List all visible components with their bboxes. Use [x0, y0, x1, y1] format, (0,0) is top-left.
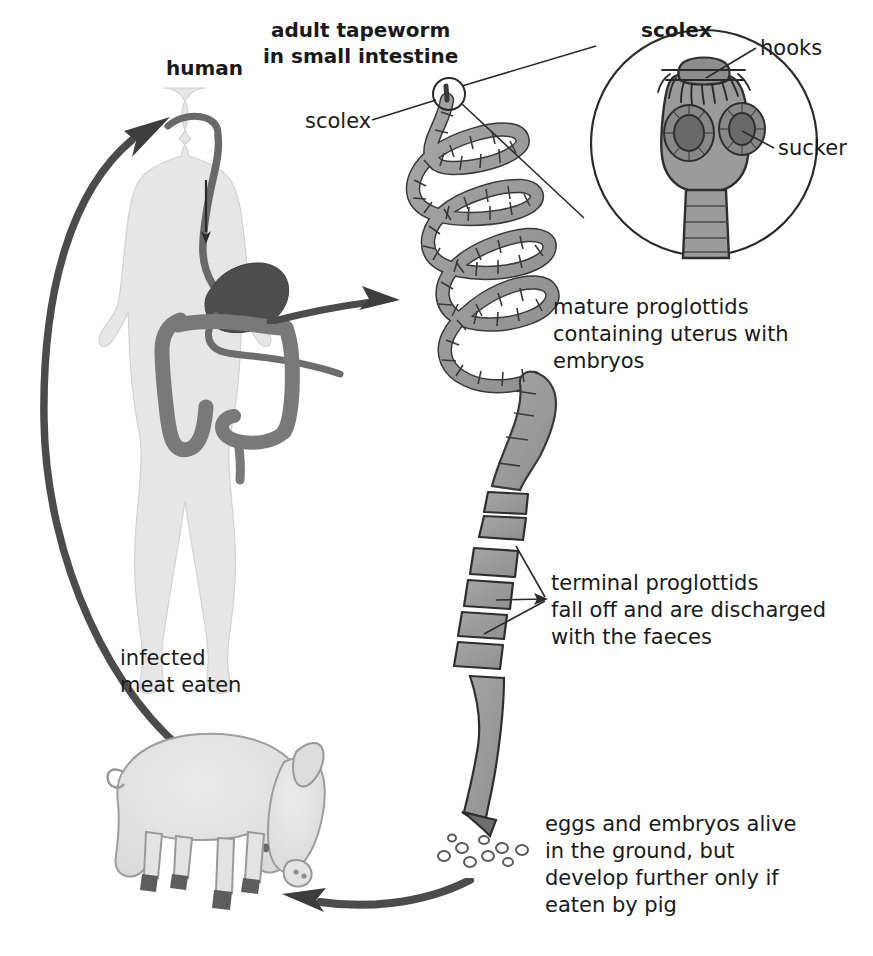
- label-hooks: hooks: [760, 35, 822, 62]
- egg: [482, 851, 494, 861]
- scolex-neck-segment: [683, 190, 729, 258]
- tapeworm-tail: [462, 676, 504, 836]
- sucker-left: [664, 105, 714, 161]
- arrow-to-tapeworm-head: [359, 286, 400, 310]
- proglottid-segment: [479, 516, 526, 540]
- colon-descending: [284, 328, 292, 432]
- egg: [464, 857, 476, 867]
- tapeworm-tail-arrowhead: [462, 812, 496, 836]
- eggs-cluster: [438, 835, 528, 868]
- magnifier-leader-line: [462, 46, 596, 86]
- label-scolex-small: scolex: [305, 108, 371, 135]
- egg: [456, 843, 468, 853]
- label-eggs: eggs and embryos alive in the ground, bu…: [545, 811, 797, 919]
- mouth-throat: [168, 116, 218, 134]
- label-terminal-proglottids: terminal proglottids fall off and are di…: [551, 570, 826, 651]
- arrow-eggs-to-pig: [282, 880, 470, 912]
- egg: [516, 845, 528, 855]
- pig-figure: [108, 734, 325, 910]
- sucker-right: [719, 103, 765, 155]
- label-mature-proglottids: mature proglottids containing uterus wit…: [553, 294, 789, 375]
- pig-leg: [216, 838, 234, 893]
- label-scolex-magnified: scolex: [641, 18, 712, 44]
- label-human: human: [166, 56, 243, 82]
- human-silhouette: [99, 88, 271, 693]
- pig-leg: [245, 832, 264, 882]
- tapeworm-lifecycle-diagram: human adult tapeworm in small intestine …: [0, 0, 873, 956]
- pig-hoof: [241, 878, 260, 894]
- proglottid-segment: [470, 548, 518, 577]
- label-adult-tapeworm: adult tapeworm in small intestine: [263, 18, 458, 69]
- label-infected-meat: infected meat eaten: [120, 645, 241, 699]
- arrow-to-tapeworm: [270, 286, 400, 322]
- pig-nostril: [293, 869, 298, 874]
- proglottid-segment: [454, 642, 503, 669]
- pig-leg: [174, 836, 192, 878]
- pig-nostril: [301, 873, 306, 878]
- egg: [479, 836, 489, 844]
- scolex-label-leader-line: [372, 100, 436, 120]
- label-sucker: sucker: [778, 135, 847, 162]
- rectum-stem: [238, 440, 240, 480]
- pig-hoof: [212, 890, 232, 910]
- tapeworm-tail-strip: [464, 676, 504, 818]
- egg: [438, 851, 450, 861]
- human-figure: [99, 88, 271, 693]
- proglottid-segment: [484, 492, 528, 514]
- pig-leg: [144, 832, 162, 878]
- terminal-proglottids: [454, 492, 528, 669]
- pig-hooves: [140, 874, 260, 910]
- egg: [448, 835, 456, 842]
- pig-hoof: [140, 874, 158, 892]
- arrow-eggs-to-pig-shaft: [320, 880, 470, 905]
- egg: [496, 843, 508, 853]
- scolex-neck: [446, 86, 447, 100]
- proglottid-segment: [464, 580, 513, 609]
- adult-tapeworm: [413, 78, 556, 490]
- egg: [503, 858, 513, 866]
- pig-hoof: [170, 874, 188, 890]
